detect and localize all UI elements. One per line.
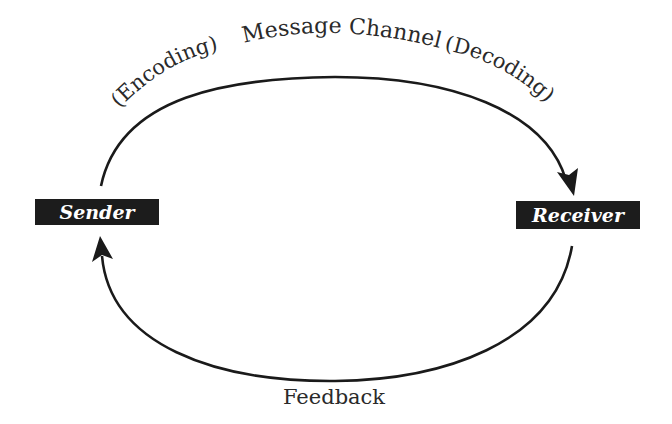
receiver-label: Receiver [531, 204, 626, 226]
sender-label: Sender [59, 201, 136, 223]
encoding-label: (Encoding) [106, 32, 220, 112]
decoding-label: (Decoding) [443, 31, 560, 106]
message-channel-arc [101, 77, 566, 186]
feedback-label: Feedback [283, 385, 385, 409]
receiver-node: Receiver [516, 201, 640, 229]
sender-node: Sender [35, 199, 159, 225]
feedback-arc [102, 246, 572, 381]
communication-diagram: (Encoding) Message Channel (Decoding) Fe… [0, 0, 672, 424]
arrowhead-to-receiver-icon [557, 168, 578, 196]
message-channel-label: Message Channel [240, 13, 445, 53]
